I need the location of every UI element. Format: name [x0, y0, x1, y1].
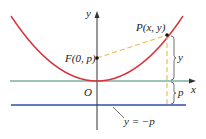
- y-axis-label: y: [85, 7, 91, 19]
- point-label: P(x, y): [135, 21, 166, 34]
- point-p: [165, 33, 169, 37]
- y-axis-arrow-icon: [95, 11, 100, 18]
- directrix-label: y = −p: [123, 115, 155, 127]
- focus-label: F(0, p): [64, 52, 96, 65]
- brace-y-label: y: [177, 51, 183, 63]
- parabola-diagram: y x O F(0, p) P(x, y) y p y = −p: [0, 0, 206, 139]
- brace-y: [171, 36, 176, 80]
- diagram-canvas: y x O F(0, p) P(x, y) y p y = −p: [0, 0, 206, 139]
- focus-point: [95, 56, 99, 60]
- brace-p-label: p: [177, 86, 184, 98]
- dashed-focus-to-point: [97, 35, 167, 58]
- directrix-leader-line: [113, 107, 124, 118]
- brace-p: [171, 82, 176, 104]
- x-axis-label: x: [190, 83, 196, 95]
- origin-label: O: [84, 86, 92, 98]
